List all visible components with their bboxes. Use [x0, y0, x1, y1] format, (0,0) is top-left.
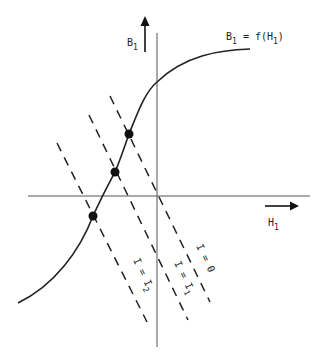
load-line-label-i-0: I = 0 — [194, 242, 217, 274]
load-line-label-i-1: I = I1 — [169, 259, 198, 297]
operating-point-i-0 — [125, 130, 134, 139]
operating-point-i-1 — [111, 168, 120, 177]
operating-point-i-2 — [89, 212, 98, 221]
load-line-label-i-2: I = I2 — [128, 256, 157, 294]
h1-arrow-icon — [265, 202, 299, 211]
y-axis-label: B1 — [127, 37, 138, 52]
load-line-i-0 — [110, 96, 210, 302]
curve-label: B1 = f(H1) — [226, 31, 284, 46]
b1-arrow-icon — [141, 16, 150, 52]
x-axis-label: H1 — [268, 217, 279, 232]
bh-load-line-diagram: B1 H1 B1 = f(H1) I = 0 I = I1 I = I2 — [0, 0, 324, 361]
load-line-i-2 — [57, 143, 147, 322]
load-line-i-1 — [89, 115, 188, 320]
